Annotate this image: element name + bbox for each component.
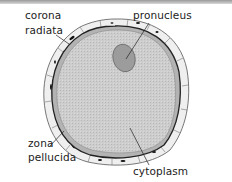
corona-radiata-label: corona radiata (25, 9, 63, 36)
cytoplasm-label: cytoplasm (133, 165, 188, 177)
zona-pellucida-label: zona pellucida (28, 137, 76, 163)
pronucleus-label: pronucleus (133, 9, 192, 21)
